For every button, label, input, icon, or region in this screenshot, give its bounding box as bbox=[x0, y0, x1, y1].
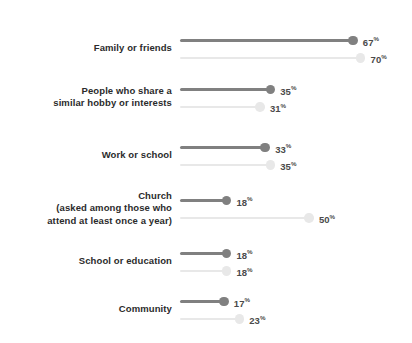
percent-sign: % bbox=[381, 53, 387, 60]
percent-sign: % bbox=[247, 195, 253, 202]
bar-track-dark bbox=[180, 300, 224, 303]
value-number: 23 bbox=[249, 315, 260, 326]
value-number: 35 bbox=[280, 86, 291, 97]
bar-track-light bbox=[180, 164, 270, 167]
value-label-dark: 35% bbox=[280, 84, 296, 97]
category-label: School or education bbox=[0, 255, 172, 268]
bar-endpoint-dot-light bbox=[266, 160, 276, 170]
category-label-line: Work or school bbox=[0, 149, 172, 162]
bar-endpoint-dot-light bbox=[304, 213, 314, 223]
percent-sign: % bbox=[247, 266, 253, 273]
percent-sign: % bbox=[247, 248, 253, 255]
bar-track-dark bbox=[180, 39, 353, 42]
bar-endpoint-dot-dark bbox=[222, 249, 232, 259]
category-label-line: similar hobby or interests bbox=[0, 97, 172, 110]
value-label-light: 18% bbox=[236, 265, 252, 278]
value-label-dark: 17% bbox=[234, 296, 250, 309]
category-label: Family or friends bbox=[0, 42, 172, 55]
value-label-light: 23% bbox=[249, 313, 265, 326]
category-label-line: Community bbox=[0, 303, 172, 316]
percent-sign: % bbox=[291, 160, 297, 167]
category-label: People who share asimilar hobby or inter… bbox=[0, 85, 172, 110]
value-label-light: 31% bbox=[270, 101, 286, 114]
category-label-line: (asked among those who bbox=[0, 202, 172, 215]
value-number: 50 bbox=[319, 214, 330, 225]
bar-endpoint-dot-light bbox=[255, 102, 265, 112]
value-number: 35 bbox=[280, 161, 291, 172]
category-label: Church(asked among those whoattend at le… bbox=[0, 190, 172, 228]
bar-track-light bbox=[180, 106, 260, 109]
bar-endpoint-dot-dark bbox=[260, 143, 270, 153]
bar-endpoint-dot-light bbox=[356, 53, 366, 63]
category-label-line: attend at least once a year) bbox=[0, 215, 172, 228]
bar-endpoint-dot-light bbox=[235, 314, 245, 324]
bar-track-dark bbox=[180, 199, 226, 202]
value-label-dark: 67% bbox=[363, 35, 379, 48]
percent-sign: % bbox=[330, 213, 336, 220]
category-label-line: School or education bbox=[0, 255, 172, 268]
value-label-light: 70% bbox=[371, 52, 387, 65]
value-label-light: 50% bbox=[319, 212, 335, 225]
value-number: 18 bbox=[236, 197, 247, 208]
value-number: 70 bbox=[371, 54, 382, 65]
bar-endpoint-dot-dark bbox=[219, 297, 229, 307]
lollipop-chart: Family or friends67%70%People who share … bbox=[0, 0, 412, 343]
percent-sign: % bbox=[373, 35, 379, 42]
category-label: Community bbox=[0, 303, 172, 316]
value-number: 33 bbox=[275, 144, 286, 155]
bar-endpoint-dot-light bbox=[222, 266, 232, 276]
value-label-dark: 33% bbox=[275, 142, 291, 155]
value-label-dark: 18% bbox=[236, 248, 252, 261]
percent-sign: % bbox=[244, 296, 250, 303]
bar-track-dark bbox=[180, 146, 265, 149]
bar-track-light bbox=[180, 318, 239, 321]
value-number: 17 bbox=[234, 298, 245, 309]
bar-endpoint-dot-dark bbox=[222, 196, 232, 206]
percent-sign: % bbox=[260, 314, 266, 321]
bar-track-light bbox=[180, 57, 361, 60]
category-label-line: People who share a bbox=[0, 85, 172, 98]
bar-endpoint-dot-dark bbox=[266, 85, 276, 95]
value-number: 18 bbox=[236, 267, 247, 278]
percent-sign: % bbox=[291, 84, 297, 91]
bar-track-dark bbox=[180, 88, 270, 91]
category-label-line: Church bbox=[0, 190, 172, 203]
value-number: 18 bbox=[236, 250, 247, 261]
percent-sign: % bbox=[281, 102, 287, 109]
bar-endpoint-dot-dark bbox=[348, 36, 358, 46]
category-label-line: Family or friends bbox=[0, 42, 172, 55]
value-number: 31 bbox=[270, 103, 281, 114]
category-label: Work or school bbox=[0, 149, 172, 162]
bar-track-light bbox=[180, 217, 309, 220]
percent-sign: % bbox=[286, 142, 292, 149]
value-number: 67 bbox=[363, 37, 374, 48]
bar-track-dark bbox=[180, 252, 226, 255]
value-label-light: 35% bbox=[280, 159, 296, 172]
value-label-dark: 18% bbox=[236, 195, 252, 208]
bar-track-light bbox=[180, 270, 226, 273]
